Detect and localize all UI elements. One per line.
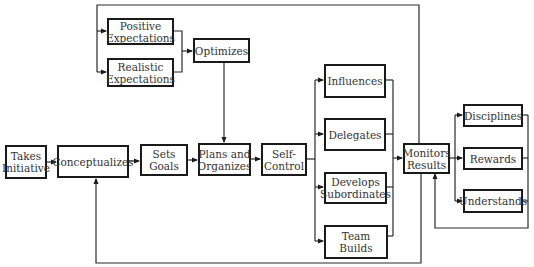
node-conceptualizes: Conceptualizes (57, 145, 129, 178)
node-develops-subordinates: Develops Subordinates (324, 172, 387, 204)
node-monitors-results: Monitors Results (403, 143, 450, 174)
connector-lines (0, 0, 534, 267)
node-positive-expectations: Positive Expectations (107, 18, 174, 45)
node-team-builds: Team Builds (324, 225, 388, 259)
node-self-control: Self- Control (261, 143, 307, 176)
node-plans-and-organizes: Plans and Organizes (198, 143, 251, 176)
node-realistic-expectations: Realistic Expectations (107, 58, 174, 87)
node-takes-initiative: Takes Initiative (5, 145, 47, 179)
node-optimizes: Optimizes (193, 38, 250, 63)
node-influences: Influences (324, 64, 386, 98)
node-rewards: Rewards (463, 147, 523, 170)
node-understands: Understands (463, 189, 523, 213)
node-sets-goals: Sets Goals (140, 144, 188, 176)
node-delegates: Delegates (324, 118, 386, 151)
leadership-process-diagram: Takes Initiative Conceptualizes Sets Goa… (0, 0, 534, 267)
node-disciplines: Disciplines (463, 104, 523, 127)
